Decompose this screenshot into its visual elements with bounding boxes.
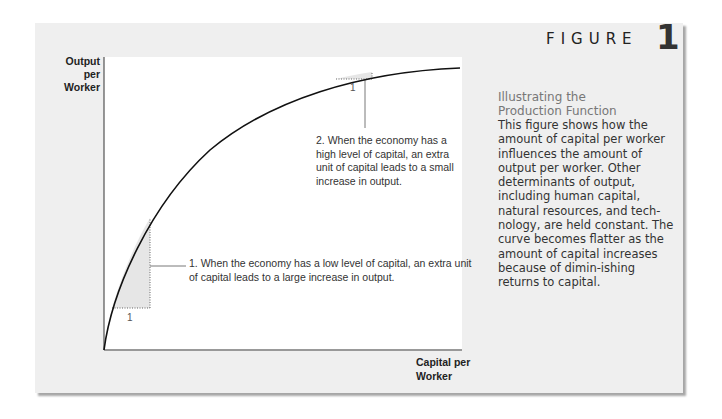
low-capital-annotation: 1. When the economy has a low level of c… xyxy=(189,257,479,284)
figure-label: FIGURE xyxy=(546,30,638,48)
caption-title-line1: Illustrating the xyxy=(498,90,668,104)
caption-title-line2: Production Function xyxy=(498,104,668,118)
caption-body: This figure shows how the amount of capi… xyxy=(498,118,674,290)
y-axis-label-line1: Output xyxy=(50,55,100,68)
caption-title: Illustrating the Production Function xyxy=(498,90,668,118)
high-capital-gain-shade xyxy=(336,72,372,79)
x-axis-label: Capital per Worker xyxy=(416,355,486,383)
x-axis-label-line2: Worker xyxy=(416,369,486,383)
unit-label-high: 1 xyxy=(350,82,356,93)
unit-label-low: 1 xyxy=(127,312,133,323)
high-capital-annotation: 2. When the economy has a high level of … xyxy=(316,134,466,188)
y-axis-label-line2: per Worker xyxy=(50,68,100,94)
x-axis-label-line1: Capital per xyxy=(416,355,486,369)
production-curve xyxy=(104,68,460,350)
y-axis-label: Output per Worker xyxy=(50,55,100,94)
figure-number: 1 xyxy=(656,17,680,57)
